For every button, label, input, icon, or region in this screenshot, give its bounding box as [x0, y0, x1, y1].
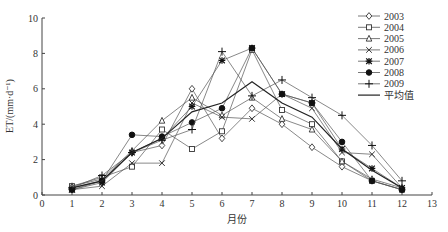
series-line: [72, 89, 402, 190]
marker-star: [366, 58, 373, 65]
x-tick-label: 9: [310, 198, 315, 209]
legend-item-2005: 2005: [358, 33, 404, 44]
legend-item-2007: 2007: [358, 56, 404, 67]
y-tick-label: 10: [28, 13, 38, 24]
marker-circle-filled: [369, 178, 375, 184]
marker-plus: [278, 76, 286, 84]
et-line-chart: 0123456789101112130246810 20032004200520…: [0, 0, 448, 232]
legend-label: 2006: [384, 44, 404, 55]
marker-circle-filled: [279, 91, 285, 97]
marker-circle-filled: [129, 132, 135, 138]
marker-square-open: [160, 127, 165, 132]
series-line: [72, 98, 402, 188]
marker-plus: [188, 126, 196, 134]
x-tick-label: 4: [160, 198, 165, 209]
series-line: [72, 94, 402, 190]
x-tick-label: 5: [190, 198, 195, 209]
marker-square-open: [280, 108, 285, 113]
series-2003: [69, 85, 405, 193]
x-tick-label: 7: [250, 198, 255, 209]
x-tick-label: 12: [397, 198, 407, 209]
marker-diamond-open: [366, 13, 372, 20]
legend-label: 2008: [384, 67, 404, 78]
legend-label: 2003: [384, 11, 404, 22]
series-2004: [70, 47, 405, 192]
x-tick-label: 1: [70, 198, 75, 209]
marker-plus: [218, 48, 226, 56]
legend-item-2009: 2009: [358, 78, 404, 89]
legend-label: 2005: [384, 33, 404, 44]
legend-label: 平均值: [384, 89, 414, 101]
y-tick-label: 4: [33, 119, 38, 130]
y-tick-label: 0: [33, 190, 38, 201]
marker-triangle-open: [279, 116, 285, 122]
marker-square-open: [190, 146, 195, 151]
series-line: [72, 50, 402, 190]
legend-item-2003: 2003: [358, 11, 404, 22]
series-2008: [69, 45, 405, 192]
marker-circle-filled: [366, 70, 372, 76]
marker-plus: [248, 92, 256, 100]
marker-circle-filled: [249, 45, 255, 51]
x-tick-label: 10: [337, 198, 347, 209]
legend-label: 2004: [384, 22, 404, 33]
legend-label: 2007: [384, 56, 404, 67]
x-tick-label: 8: [280, 198, 285, 209]
x-tick-label: 13: [427, 198, 437, 209]
y-tick-label: 8: [33, 48, 38, 59]
marker-diamond-open: [309, 144, 315, 151]
y-axis-title: ET/(mm·d⁻¹): [4, 79, 16, 133]
y-tick-label: 2: [33, 154, 38, 165]
marker-triangle-open: [189, 94, 195, 100]
marker-square-open: [220, 129, 225, 134]
x-tick-label: 6: [220, 198, 225, 209]
series-2005: [69, 94, 405, 190]
axes: 0123456789101112130246810: [28, 13, 437, 210]
marker-circle-filled: [339, 139, 345, 145]
legend-item-平均值: 平均值: [358, 89, 414, 101]
y-tick-label: 6: [33, 83, 38, 94]
series-group: [68, 45, 406, 193]
marker-square-open: [367, 25, 372, 30]
legend: 2003200420052006200720082009平均值: [358, 11, 414, 101]
marker-triangle-open: [159, 117, 165, 123]
x-axis-title: 月份: [227, 214, 247, 225]
marker-circle-filled: [219, 105, 225, 111]
x-tick-label: 2: [100, 198, 105, 209]
marker-diamond-open: [189, 85, 195, 92]
x-tick-label: 0: [40, 198, 45, 209]
x-tick-label: 3: [130, 198, 135, 209]
x-tick-label: 11: [367, 198, 377, 209]
legend-item-2008: 2008: [358, 67, 404, 78]
marker-star: [189, 103, 196, 110]
marker-plus: [365, 80, 373, 88]
legend-label: 2009: [384, 78, 404, 89]
legend-item-2006: 2006: [358, 44, 404, 55]
legend-item-2004: 2004: [358, 22, 404, 33]
series-2007: [69, 45, 406, 193]
